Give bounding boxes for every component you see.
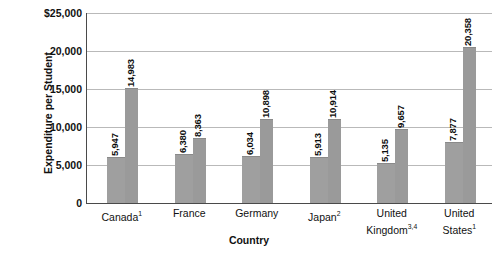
bar: 5,135 — [377, 163, 395, 203]
bar-value-label: 10,898 — [259, 90, 270, 118]
bar: 20,358 — [463, 47, 476, 203]
bar-value-label: 14,983 — [124, 59, 135, 87]
y-tick-label: 10,000 — [26, 122, 82, 132]
bar-value-label: 8,363 — [192, 115, 203, 138]
bar: 6,380 — [175, 154, 193, 203]
bar: 6,034 — [242, 156, 260, 203]
footnote-marker: 2 — [337, 210, 341, 217]
plot-area: 5,94714,9836,3808,3636,03410,8985,91310,… — [86, 13, 492, 204]
bar: 8,363 — [193, 138, 206, 203]
bar: 10,898 — [260, 119, 273, 203]
bar-chart: Expenditure per Student 05,00010,00015,0… — [0, 0, 498, 255]
y-axis-tick-labels: 05,00010,00015,00020,000$25,000 — [22, 0, 82, 215]
footnote-marker: 1 — [472, 223, 476, 230]
bar-group: 6,03410,898 — [242, 13, 273, 203]
bar-group: 5,1359,657 — [377, 13, 408, 203]
y-tick-label: 15,000 — [26, 84, 82, 94]
bar-group: 6,3808,363 — [175, 13, 206, 203]
bar-value-label: 6,034 — [244, 132, 255, 155]
bar-series-container: 5,94714,9836,3808,3636,03410,8985,91310,… — [87, 13, 492, 203]
bar-group: 5,94714,983 — [107, 13, 138, 203]
bar: 5,913 — [310, 157, 328, 203]
bar-value-label: 5,913 — [311, 133, 322, 156]
y-tick-label: 20,000 — [26, 46, 82, 56]
bar-value-label: 5,135 — [379, 139, 390, 162]
bar-value-label: 7,877 — [446, 118, 457, 141]
y-tick-label: 0 — [26, 198, 82, 208]
bar: 5,947 — [107, 157, 125, 203]
x-axis-title: Country — [0, 234, 498, 246]
x-tick-label-united-states: UnitedStates1 — [413, 207, 498, 237]
bar-value-label: 20,358 — [462, 18, 473, 46]
bar-value-label: 9,657 — [394, 105, 405, 128]
bar: 14,983 — [125, 88, 138, 203]
bar-value-label: 10,914 — [327, 90, 338, 118]
y-tick-label: $25,000 — [26, 8, 82, 18]
y-tick-label: 5,000 — [26, 160, 82, 170]
bar-value-label: 6,380 — [176, 130, 187, 153]
bar-group: 7,87720,358 — [445, 13, 476, 203]
bar: 10,914 — [328, 119, 341, 203]
bar: 7,877 — [445, 142, 463, 203]
bar-group: 5,91310,914 — [310, 13, 341, 203]
bar-value-label: 5,947 — [109, 133, 120, 156]
footnote-marker: 1 — [138, 210, 142, 217]
x-tick-label-line: United — [413, 207, 498, 220]
bar: 9,657 — [395, 129, 408, 203]
